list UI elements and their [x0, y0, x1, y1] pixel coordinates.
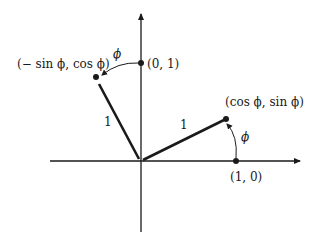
label-angle-y: ϕ	[113, 47, 121, 61]
point-rotated-y	[93, 74, 99, 80]
label-unit-y: (0, 1)	[147, 57, 179, 71]
label-rotated-x: (cos ϕ, sin ϕ)	[225, 95, 304, 109]
point-unit-x	[233, 158, 239, 164]
label-angle-x: ϕ	[241, 130, 249, 144]
point-unit-y	[138, 60, 144, 66]
label-length-x: 1	[180, 118, 188, 132]
label-rotated-y: (− sin ϕ, cos ϕ)	[17, 57, 110, 71]
label-length-y: 1	[104, 115, 112, 129]
point-rotated-x	[223, 116, 229, 122]
angle-arc-x	[227, 124, 236, 158]
rotation-diagram: (0, 1) (1, 0) (cos ϕ, sin ϕ) (− sin ϕ, c…	[0, 0, 317, 243]
label-unit-x: (1, 0)	[230, 170, 262, 184]
